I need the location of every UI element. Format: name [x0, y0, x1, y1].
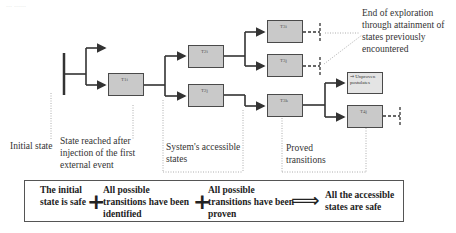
node-t3j: T3j	[267, 54, 303, 77]
initial-state-note: Initial state	[10, 140, 60, 152]
proved-transitions-note: Proved transitions	[286, 142, 346, 166]
node-unproven-postulates: ⇒ Unproven postulates	[347, 72, 383, 94]
node-t2i: T2i	[188, 45, 224, 68]
summary-box: The initial state is safe + All possible…	[24, 180, 404, 222]
summary-initial-safe: The initial state is safe	[40, 184, 88, 208]
node-t2j: T2j	[188, 84, 224, 107]
summary-transitions-identified: All possible transitions have been ident…	[103, 184, 193, 220]
node-t3k: T3k	[267, 94, 303, 117]
summary-conclusion: All the accessible states are safe	[325, 189, 405, 213]
end-of-exploration-note: End of exploration through attainment of…	[362, 7, 456, 55]
state-reached-note: State reached after injection of the fir…	[60, 135, 145, 171]
summary-transitions-proven: All possible transitions have been prove…	[208, 184, 298, 220]
implies-arrow-icon: ⟹	[291, 189, 320, 211]
node-t1i: T1i	[108, 73, 144, 96]
node-t4j: T4j	[347, 105, 383, 128]
accessible-states-note: System's accessible states	[166, 141, 244, 165]
node-t3i: T3i	[267, 20, 303, 43]
